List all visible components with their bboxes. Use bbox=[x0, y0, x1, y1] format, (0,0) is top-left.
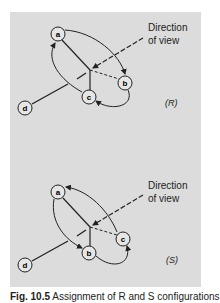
svg-text:c: c bbox=[87, 93, 92, 102]
bond-center-c bbox=[90, 227, 117, 235]
bond-center-b bbox=[90, 70, 119, 79]
rotation-arrow-b-to-c bbox=[96, 246, 128, 264]
node-b: b bbox=[82, 246, 96, 260]
node-a: a bbox=[51, 185, 65, 199]
configuration-label: (R) bbox=[165, 98, 178, 108]
svg-text:a: a bbox=[56, 188, 61, 197]
svg-text:b: b bbox=[87, 249, 92, 258]
figure-caption: Fig. 10.5 Assignment of R and S configur… bbox=[10, 291, 220, 303]
svg-text:a: a bbox=[56, 30, 61, 39]
node-a: a bbox=[51, 27, 65, 41]
direction-label-line2: of view bbox=[148, 193, 180, 204]
bond-center-a bbox=[63, 198, 90, 227]
node-c: c bbox=[82, 90, 96, 104]
bond-center-a bbox=[62, 40, 90, 70]
node-b: b bbox=[118, 76, 132, 90]
panel-r: a b c d Direction of view (R) bbox=[18, 22, 187, 115]
svg-text:d: d bbox=[23, 104, 28, 113]
direction-of-view-arrow bbox=[93, 195, 143, 225]
bond-center-d-lower bbox=[32, 84, 68, 104]
bond-center-d-upper bbox=[77, 73, 86, 79]
direction-label-line1: Direction bbox=[148, 22, 187, 33]
caption-prefix: Fig. 10.5 bbox=[10, 291, 50, 302]
svg-text:c: c bbox=[121, 235, 126, 244]
node-d: d bbox=[18, 101, 32, 115]
caption-text: Assignment of R and S configurations bbox=[52, 291, 219, 302]
node-c: c bbox=[116, 232, 130, 246]
bond-center-d-lower bbox=[32, 241, 68, 261]
svg-text:b: b bbox=[123, 79, 128, 88]
panel-s: a b c d Direction of view (S) bbox=[18, 180, 187, 272]
bond-center-d-upper bbox=[77, 230, 86, 236]
direction-label-line1: Direction bbox=[148, 180, 187, 191]
direction-label-line2: of view bbox=[148, 35, 180, 46]
node-d: d bbox=[18, 258, 32, 272]
configuration-label: (S) bbox=[166, 255, 178, 265]
svg-text:d: d bbox=[23, 261, 28, 270]
rotation-arrow-b-to-c bbox=[96, 90, 129, 107]
